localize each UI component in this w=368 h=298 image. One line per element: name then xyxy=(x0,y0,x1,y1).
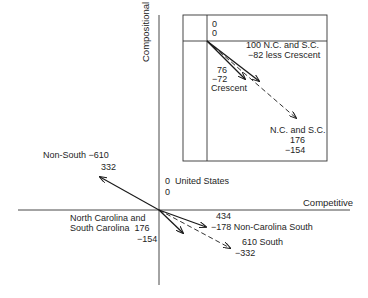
inset-nc-sc-label: N.C. and S.C. xyxy=(270,125,326,136)
nc-sc-compositional: −154 xyxy=(137,234,157,245)
us-origin-y: 0 xyxy=(165,187,170,198)
nc-sc-arrow xyxy=(159,210,183,233)
inset-less-crescent-label-2: −82 less Crescent xyxy=(248,50,320,61)
competitive-axis-label: Competitive xyxy=(303,198,353,209)
us-origin-label: 0 United States xyxy=(165,176,229,187)
non-carolina-south-arrow xyxy=(159,210,206,227)
non-south-compositional: 332 xyxy=(101,162,116,173)
inset-box xyxy=(183,15,327,161)
nc-sc-label-1: North Carolina and xyxy=(70,213,146,224)
non-south-label: Non-South −610 xyxy=(43,150,109,161)
nc-sc-label-2: South Carolina 176 xyxy=(70,223,150,234)
non-carolina-south-competitive: 434 xyxy=(216,211,231,222)
non-carolina-south-label: −178 Non-Carolina South xyxy=(211,222,313,233)
non-south-arrow xyxy=(100,177,159,210)
inset-nc-sc-competitive: 176 xyxy=(290,135,305,146)
inset-less-crescent-label-1: 100 N.C. and S.C. xyxy=(246,40,319,51)
inset-nc-sc-compositional: −154 xyxy=(285,145,305,156)
south-compositional: −332 xyxy=(235,248,255,259)
south-label: 610 South xyxy=(242,237,283,248)
crescent-label: Crescent xyxy=(211,83,247,94)
compositional-axis-label: Compositional xyxy=(140,2,151,62)
inset-origin-y: 0 xyxy=(212,28,217,39)
